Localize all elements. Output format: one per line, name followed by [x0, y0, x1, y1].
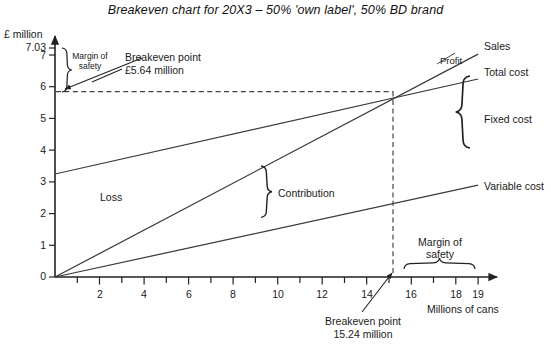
y-tick-label-3: 3 [0, 175, 46, 187]
breakeven-volume-label-line2: 15.24 million [268, 328, 458, 340]
total-cost-label: Total cost [484, 66, 528, 78]
x-axis-ticks [77, 277, 478, 285]
y-tick-label-6: 6 [0, 80, 46, 92]
variable-cost-label: Variable cost [484, 180, 544, 192]
fixed-cost-brace [456, 76, 470, 148]
x-tick-label-18: 18 [445, 288, 467, 300]
x-tick-label-10: 10 [267, 288, 289, 300]
breakeven-value-label-line2: £5.64 million [125, 64, 184, 76]
contribution-brace [261, 166, 272, 217]
breakeven-chart: Breakeven chart for 20X3 – 50% 'own labe… [0, 0, 551, 347]
breakeven-volume-label-line1: Breakeven point [268, 315, 458, 327]
y-axis-ticks [49, 48, 55, 277]
y-tick-label-2: 2 [0, 207, 46, 219]
y-axis-title: £ million [4, 28, 43, 40]
margin-of-safety-x-label-line1: Margin of [404, 236, 476, 248]
breakeven-value-label-line1: Breakeven point [125, 51, 201, 63]
total-cost-line [55, 79, 478, 174]
x-tick-label-16: 16 [400, 288, 422, 300]
x-tick-label-12: 12 [311, 288, 333, 300]
contribution-label: Contribution [278, 187, 335, 199]
x-tick-label-14: 14 [356, 288, 378, 300]
y-tick-label-7: 7 [0, 49, 46, 61]
y-tick-label-1: 1 [0, 239, 46, 251]
y-tick-label-0: 0 [0, 270, 46, 282]
x-tick-label-6: 6 [178, 288, 200, 300]
x-axis-title: Millions of cans [427, 303, 499, 315]
margin-of-safety-y-label-line2: safety [58, 61, 122, 71]
sales-label: Sales [484, 40, 510, 52]
fixed-cost-label: Fixed cost [484, 113, 532, 125]
x-tick-label-4: 4 [133, 288, 155, 300]
y-tick-label-4: 4 [0, 144, 46, 156]
loss-label: Loss [100, 191, 122, 203]
margin-of-safety-x-label-line2: safety [404, 248, 476, 260]
margin-of-safety-y-label-line1: Margin of [58, 51, 122, 61]
x-tick-label-8: 8 [222, 288, 244, 300]
x-tick-label-19: 19 [467, 288, 489, 300]
y-tick-label-5: 5 [0, 112, 46, 124]
x-tick-label-2: 2 [89, 288, 111, 300]
profit-label: Profit [440, 55, 462, 66]
